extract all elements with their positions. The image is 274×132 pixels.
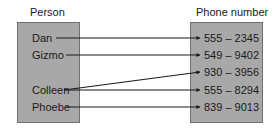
mapping-arrows xyxy=(0,0,274,132)
arrow-colleen-to-9303956 xyxy=(64,72,200,90)
